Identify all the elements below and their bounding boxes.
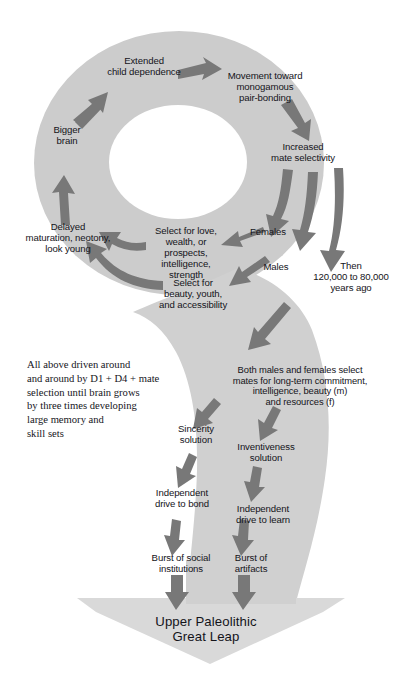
label-upper-paleolithic-great-leap: Upper Paleolithic Great Leap xyxy=(121,614,291,644)
label-burst-of-artifacts: Burst of artifacts xyxy=(215,553,287,575)
arrow-to-inventiveness-solution xyxy=(258,406,281,441)
label-females: Females xyxy=(237,227,299,238)
label-select-for-love: Select for love, wealth, or prospects, i… xyxy=(140,226,232,281)
arrow-to-great-leap-right xyxy=(232,575,256,610)
label-extended-child-dependence: Extended child dependence xyxy=(88,56,200,78)
label-movement-toward-monogamous-pair-bonding: Movement toward monogamous pair-bonding xyxy=(208,71,322,104)
label-both-males-and-females-select: Both males and females select mates for … xyxy=(205,365,395,408)
arrow-to-males xyxy=(292,172,318,251)
arrow-to-great-leap-left xyxy=(165,575,189,610)
label-select-for-beauty: Select for beauty, youth, and accessibil… xyxy=(138,278,248,311)
label-increased-mate-selectivity: Increased mate selectivity xyxy=(253,142,353,164)
arrow-to-burst-of-social-institutions xyxy=(164,519,185,556)
arrow-to-bigger-brain xyxy=(52,175,75,225)
arrow-to-increased-mate-selectivity xyxy=(281,99,311,141)
diagram-canvas: Extended child dependence Movement towar… xyxy=(0,0,404,685)
label-then-years-ago: Then 120,000 to 80,000 years ago xyxy=(301,261,401,294)
arrow-to-both-males-and-females xyxy=(248,302,291,350)
label-bigger-brain: Bigger brain xyxy=(35,125,99,147)
arrow-to-independent-drive-to-learn xyxy=(244,466,265,502)
flow-arrows xyxy=(0,0,404,685)
label-delayed-maturation: Delayed maturation, neotony, look young xyxy=(9,222,127,255)
label-independent-drive-to-learn: Independent drive to learn xyxy=(213,504,313,526)
label-males: Males xyxy=(250,262,302,273)
label-inventiveness-solution: Inventiveness solution xyxy=(219,442,313,464)
arrow-to-then xyxy=(320,168,345,272)
arrow-to-independent-drive-to-bond xyxy=(176,453,197,488)
